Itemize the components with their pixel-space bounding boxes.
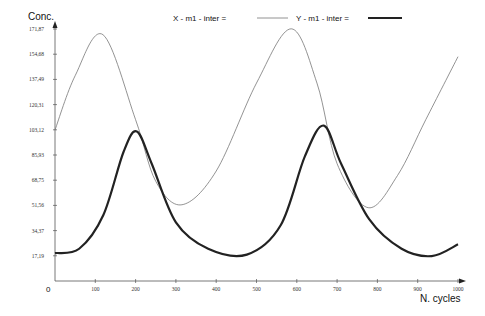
y-tick-label: 154,68 xyxy=(29,51,44,57)
y-tick-label: 120,31 xyxy=(29,102,44,108)
legend-label-y: Y - m1 - inter = xyxy=(296,14,349,23)
x-tick-label: 600 xyxy=(293,286,302,292)
x-tick-label: 1000 xyxy=(453,286,464,292)
y-tick-label: 85,93 xyxy=(32,152,45,158)
legend-label-x: X - m1 - inter = xyxy=(173,14,226,23)
x-axis-title: N. cycles xyxy=(420,293,461,304)
x-tick-label: 700 xyxy=(333,286,342,292)
y-axis-title: Conc. xyxy=(28,11,54,22)
y-tick-label: 17,19 xyxy=(32,253,45,259)
x-axis-arrow-icon xyxy=(459,279,466,284)
x-tick-label: 300 xyxy=(172,286,181,292)
x-tick-label: 200 xyxy=(131,286,140,292)
origin-label: 0 xyxy=(46,285,51,294)
y-tick-label: 51,56 xyxy=(32,202,45,208)
axes: Conc. N. cycles 0 17,1934,3751,5668,7585… xyxy=(28,11,466,304)
x-tick-label: 900 xyxy=(414,286,423,292)
y-ticks: 17,1934,3751,5668,7585,93103,12120,31137… xyxy=(29,26,57,259)
y-tick-label: 137,49 xyxy=(29,76,44,82)
x-tick-label: 500 xyxy=(252,286,261,292)
x-tick-label: 400 xyxy=(212,286,221,292)
legend: X - m1 - inter = Y - m1 - inter = xyxy=(173,14,402,23)
series-layer xyxy=(55,29,458,256)
x-tick-label: 100 xyxy=(91,286,100,292)
y-tick-label: 103,12 xyxy=(29,127,44,133)
x-tick-label: 800 xyxy=(373,286,382,292)
y-tick-label: 171,87 xyxy=(29,26,44,32)
y-tick-label: 34,37 xyxy=(32,228,45,234)
line-chart: X - m1 - inter = Y - m1 - inter = Conc. … xyxy=(0,0,485,316)
y-tick-label: 68,75 xyxy=(32,177,45,183)
series-y-line xyxy=(55,126,458,257)
y-axis-arrow-icon xyxy=(53,21,58,28)
